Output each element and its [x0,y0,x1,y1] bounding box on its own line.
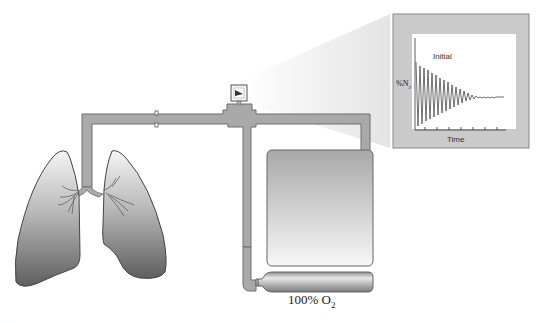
chart-x-axis-label: Time [447,135,464,144]
oxygen-reservoir-bag [267,150,373,266]
chart-annotation-initial: Initial [433,52,452,61]
figure-canvas: Initial Time %N2 100% O2 ... [0,0,545,323]
washout-inset [393,14,529,148]
diagram-svg [0,0,545,323]
chart-y-axis-label: %N2 [396,79,411,90]
y-axis-label-subscript: 2 [408,85,411,90]
oxygen-label-text: 100% O [288,292,331,307]
oxygen-label-subscript: 2 [331,300,336,310]
cropped-caption: ... [0,316,545,323]
oxygen-cylinder [256,272,373,292]
y-axis-label-text: %N [396,79,408,88]
oxygen-label: 100% O2 [288,292,335,310]
